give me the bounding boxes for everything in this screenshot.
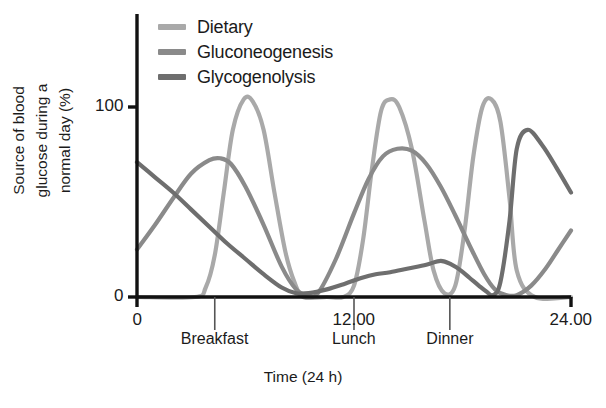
y-axis-title-line-1: Source of blood (7, 36, 30, 246)
series-line-dietary (137, 97, 571, 299)
y-axis-title: Source of blood glucose during a normal … (7, 36, 76, 246)
legend-swatch-glycogenolysis (158, 74, 186, 80)
chart-legend: Dietary Gluconeogenesis Glycogenolysis (158, 14, 333, 89)
legend-label-glycogenolysis: Glycogenolysis (197, 68, 315, 86)
legend-label-dietary: Dietary (197, 18, 253, 36)
legend-item-dietary: Dietary (158, 14, 333, 39)
y-axis-title-line-2: glucose during a (30, 36, 53, 246)
legend-item-glycogenolysis: Glycogenolysis (158, 64, 333, 89)
legend-label-gluconeogenesis: Gluconeogenesis (197, 43, 333, 61)
x-axis-title: Time (24 h) (0, 368, 606, 386)
y-axis-title-line-3: normal day (%) (53, 36, 76, 246)
x-tick-label-24-00: 24.00 (550, 310, 593, 330)
legend-swatch-gluconeogenesis (158, 49, 186, 55)
legend-swatch-dietary (158, 24, 186, 30)
legend-item-gluconeogenesis: Gluconeogenesis (158, 39, 333, 64)
annotation-dinner: Dinner (426, 330, 473, 348)
chart-figure: Source of blood glucose during a normal … (0, 0, 606, 408)
annotation-lunch: Lunch (332, 330, 376, 348)
x-tick-label-0: 0 (133, 310, 142, 330)
annotation-breakfast: Breakfast (181, 330, 249, 348)
y-tick-label-100: 100 (95, 96, 123, 116)
x-tick-label-12-00: 12.00 (333, 310, 376, 330)
y-tick-label-0: 0 (114, 286, 123, 306)
